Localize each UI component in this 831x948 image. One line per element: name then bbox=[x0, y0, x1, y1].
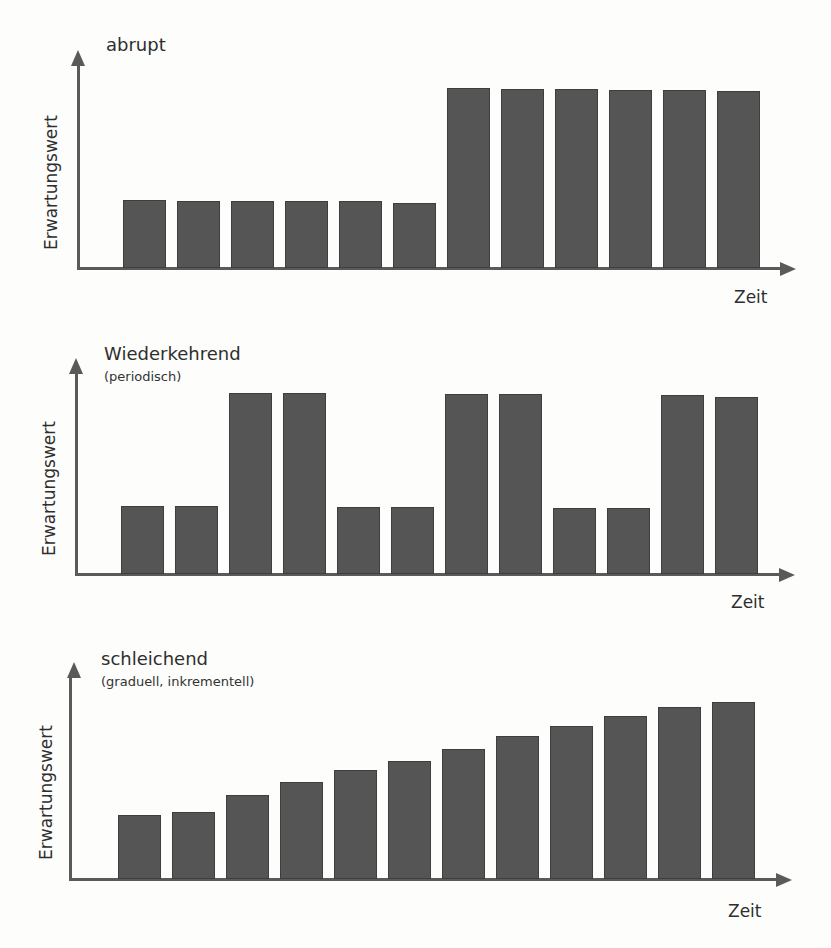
bar bbox=[172, 812, 215, 879]
bar bbox=[118, 815, 161, 879]
chart-title: schleichend bbox=[101, 648, 208, 669]
bar bbox=[337, 507, 380, 574]
y-axis-label: Erwartungswert bbox=[41, 115, 61, 250]
bar bbox=[550, 726, 593, 879]
bar bbox=[609, 90, 652, 268]
bar bbox=[121, 506, 164, 574]
bar bbox=[283, 393, 326, 574]
bar bbox=[663, 90, 706, 268]
chart-panel-abrupt: abrupt Erwartungswert Zeit bbox=[0, 0, 831, 310]
bar bbox=[715, 397, 758, 574]
bar bbox=[388, 761, 431, 879]
bar bbox=[447, 88, 490, 268]
bar bbox=[496, 736, 539, 879]
bar bbox=[712, 702, 755, 879]
bar bbox=[445, 394, 488, 574]
bar bbox=[226, 795, 269, 879]
bar bbox=[334, 770, 377, 879]
bar bbox=[280, 782, 323, 879]
y-axis-label: Erwartungswert bbox=[36, 725, 56, 860]
x-axis-arrow-icon bbox=[780, 262, 796, 276]
bar bbox=[658, 707, 701, 879]
bar bbox=[717, 91, 760, 268]
x-axis-label: Zeit bbox=[731, 592, 765, 612]
x-axis-arrow-icon bbox=[779, 568, 795, 582]
bar bbox=[177, 201, 220, 268]
bar bbox=[231, 201, 274, 268]
bar bbox=[339, 201, 382, 268]
chart-panel-wiederkehrend: Wiederkehrend (periodisch) Erwartungswer… bbox=[0, 310, 831, 620]
chart-title: abrupt bbox=[106, 34, 166, 55]
bar bbox=[393, 203, 436, 268]
bar bbox=[661, 395, 704, 574]
bar bbox=[229, 393, 272, 574]
y-axis bbox=[75, 370, 78, 576]
bar bbox=[501, 89, 544, 268]
x-axis-label: Zeit bbox=[728, 901, 762, 921]
bar bbox=[555, 89, 598, 268]
bar bbox=[607, 508, 650, 574]
chart-title: Wiederkehrend bbox=[104, 343, 241, 364]
x-axis-label: Zeit bbox=[734, 287, 768, 307]
bar bbox=[499, 394, 542, 574]
chart-panel-schleichend: schleichend (graduell, inkrementell) Erw… bbox=[0, 620, 831, 948]
bar bbox=[123, 200, 166, 268]
y-axis bbox=[77, 62, 80, 270]
bar bbox=[285, 201, 328, 268]
y-axis-label: Erwartungswert bbox=[39, 421, 59, 556]
bar bbox=[391, 507, 434, 574]
bar bbox=[175, 506, 218, 574]
y-axis bbox=[69, 674, 72, 881]
chart-subtitle: (graduell, inkrementell) bbox=[101, 674, 254, 689]
bar bbox=[604, 716, 647, 879]
bar bbox=[553, 508, 596, 574]
bar bbox=[442, 749, 485, 879]
x-axis-arrow-icon bbox=[776, 873, 792, 887]
chart-subtitle: (periodisch) bbox=[104, 369, 181, 384]
